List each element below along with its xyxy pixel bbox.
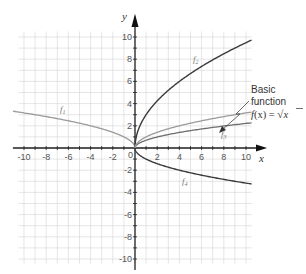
origin-label: 0 — [128, 150, 133, 160]
y-axis-label: y — [121, 10, 127, 22]
x-tick-label: -8 — [42, 152, 50, 162]
curve-f3 — [135, 123, 252, 148]
x-tick-label: 4 — [177, 152, 182, 162]
axes — [13, 14, 267, 270]
x-tick-label: 10 — [241, 152, 251, 162]
svg-text:f4: f4 — [182, 176, 188, 187]
x-tick-label: 8 — [221, 152, 226, 162]
y-tick-label: -6 — [124, 210, 132, 220]
curve-label-f2: f2 — [193, 54, 199, 65]
y-tick-label: -4 — [124, 187, 132, 197]
x-tick-label: -2 — [109, 152, 117, 162]
y-tick-label: -2 — [124, 165, 132, 175]
x-tick-label: 2 — [155, 152, 160, 162]
x-tick-label: -6 — [64, 152, 72, 162]
annotation-line-1: Basic — [251, 84, 275, 95]
y-tick-label: -8 — [124, 232, 132, 242]
curve-label-f1: f1 — [60, 104, 66, 115]
x-tick-label: -4 — [87, 152, 95, 162]
annotation-formula: f(x) = √x — [251, 108, 288, 121]
y-tick-label: 8 — [127, 54, 132, 64]
svg-text:f1: f1 — [60, 104, 66, 115]
curve-f4 — [135, 148, 252, 184]
annotation-line-2: function — [251, 96, 286, 107]
curve-f1 — [13, 111, 135, 148]
x-axis-label: x — [258, 152, 264, 164]
y-tick-label: 6 — [127, 76, 132, 86]
svg-text:f2: f2 — [193, 54, 199, 65]
y-tick-label: 4 — [127, 99, 132, 109]
curve-label-f4: f4 — [182, 176, 188, 187]
x-axis-arrow-icon — [256, 145, 267, 152]
y-tick-label: -10 — [119, 254, 132, 264]
y-axis-arrow-icon — [132, 14, 139, 27]
chart: -10-8-6-4-2246810108642-2-4-6-8-10 x y 0… — [0, 0, 306, 274]
x-tick-label: -10 — [17, 152, 30, 162]
y-tick-label: 2 — [127, 121, 132, 131]
y-tick-label: 10 — [122, 32, 132, 42]
curves — [13, 40, 252, 184]
x-tick-label: 6 — [199, 152, 204, 162]
